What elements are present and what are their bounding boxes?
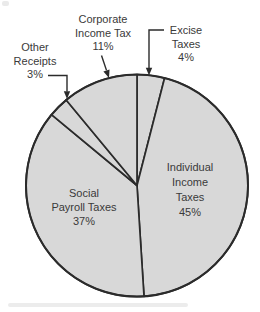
slice-label-line: Corporate [53, 13, 153, 27]
slice-label-line: Payroll Taxes [44, 200, 124, 214]
slice-label-individual: Individual Income Taxes 45% [150, 160, 230, 220]
slice-label-line: Taxes [150, 190, 230, 205]
slice-label-line: Income Tax [53, 27, 153, 41]
slice-label-line: Income [150, 175, 230, 190]
slice-label-social: Social Payroll Taxes 37% [44, 186, 124, 228]
slice-label-excise: Excise Taxes 4% [146, 24, 226, 65]
slice-label-line: 37% [44, 214, 124, 228]
pie-chart-figure: Corporate Income Tax 11% Excise Taxes 4%… [0, 0, 260, 312]
scan-artifact-bottom [8, 303, 188, 307]
corporate-arrowhead-icon [103, 69, 109, 78]
slice-label-line: Receipts [0, 55, 70, 69]
scan-artifact-top-left [2, 1, 9, 6]
slice-label-line: 3% [0, 68, 70, 82]
slice-label-line: 4% [146, 51, 226, 65]
slice-label-line: Excise [146, 24, 226, 38]
corporate-connector-line [102, 56, 107, 71]
slice-label-line: Social [44, 186, 124, 200]
slice-label-line: Other [0, 41, 70, 55]
slice-label-line: Individual [150, 160, 230, 175]
slice-label-line: 45% [150, 205, 230, 220]
slice-label-other: Other Receipts 3% [0, 41, 70, 82]
slice-label-line: Taxes [146, 38, 226, 52]
